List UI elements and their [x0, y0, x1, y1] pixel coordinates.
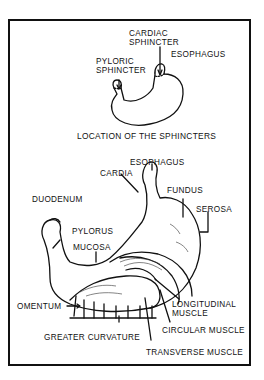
- label-greater-curvature: GREATER CURVATURE: [44, 333, 140, 342]
- label-pyloric-sphincter-line2: SPHINCTER: [96, 66, 146, 75]
- label-mucosa: MUCOSA: [73, 243, 111, 252]
- label-cardia: CARDIA: [100, 169, 133, 178]
- label-circular-muscle: CIRCULAR MUSCLE: [162, 326, 245, 335]
- label-cardiac-sphincter-line1: CARDIAC: [129, 29, 168, 38]
- label-serosa: SEROSA: [196, 205, 232, 214]
- label-longitudinal-line1: LONGITUDINAL: [172, 300, 236, 309]
- label-cardiac-sphincter-line2: SPHINCTER: [129, 38, 179, 47]
- label-esophagus: ESOPHAGUS: [130, 158, 185, 167]
- label-fundus: FUNDUS: [167, 186, 203, 195]
- label-transverse-muscle: TRANSVERSE MUSCLE: [146, 348, 243, 357]
- label-esophagus-top: ESOPHAGUS: [171, 50, 226, 59]
- label-longitudinal-line2: MUSCLE: [172, 309, 208, 318]
- label-pyloric-sphincter-line1: PYLORIC: [96, 57, 134, 66]
- label-omentum: OMENTUM: [17, 302, 61, 311]
- caption-sphincters: LOCATION OF THE SPHINCTERS: [77, 132, 216, 141]
- label-pylorus: PYLORUS: [72, 227, 113, 236]
- label-duodenum: DUODENUM: [32, 195, 83, 204]
